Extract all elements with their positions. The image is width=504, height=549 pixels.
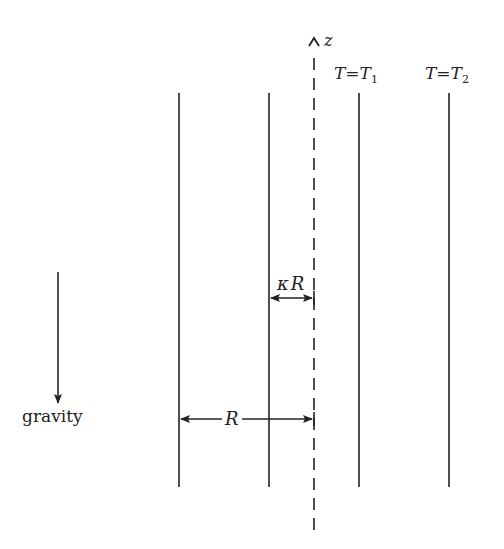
t1-label: T=T1 (334, 63, 378, 86)
t2-label: T=T2 (425, 63, 469, 86)
kappa-r-label: κR (276, 273, 304, 294)
z-label: z (323, 31, 333, 50)
r-label: R (224, 408, 239, 429)
z-axis-arrow-icon (309, 38, 319, 46)
annulus-diagram: z T=T1 T=T2 κR R gravity (0, 0, 504, 549)
gravity-label: gravity (22, 406, 83, 426)
